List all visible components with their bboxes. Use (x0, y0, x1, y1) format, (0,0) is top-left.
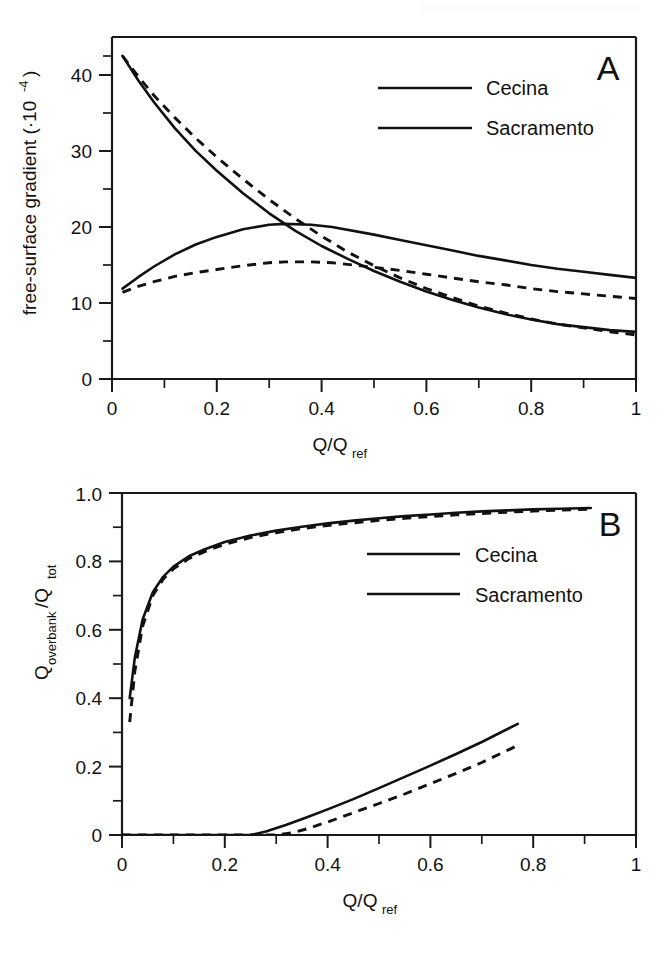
yaxis-title-b-tot: tot (44, 564, 59, 579)
xtick-label-a-06: 0.6 (413, 398, 439, 419)
panel-a-yticks-major (99, 75, 112, 379)
curve-a-sacramento-rising (123, 262, 637, 299)
yaxis-title-b: Q overbank /Q tot (31, 564, 59, 680)
xtick-label-a-04: 0.4 (308, 398, 335, 419)
xaxis-title-a-sub: ref (352, 446, 368, 461)
figure-container: 0 10 20 30 40 0 0.2 (0, 0, 671, 954)
ytick-label-b-04: 0.4 (76, 688, 103, 709)
xtick-label-b-0: 0 (117, 854, 128, 875)
panel-letter-b: B (599, 505, 622, 543)
yaxis-title-a-close: ) (19, 71, 40, 77)
xtick-label-a-1: 1 (631, 398, 642, 419)
xtick-label-a-08: 0.8 (518, 398, 544, 419)
xaxis-title-b-main: Q/Q (343, 890, 378, 911)
panel-a: 0 10 20 30 40 0 0.2 (0, 0, 671, 470)
ytick-label-a-20: 20 (71, 217, 92, 238)
legend-a-label-sacramento: Sacramento (486, 117, 594, 139)
yaxis-title-a-exponent: -4 (16, 80, 31, 92)
ytick-label-b-06: 0.6 (76, 620, 102, 641)
xaxis-title-b: Q/Q ref (343, 890, 398, 917)
panel-a-curves (123, 56, 637, 335)
xtick-label-b-02: 0.2 (212, 854, 238, 875)
panel-b-axes (122, 493, 636, 835)
yaxis-title-a: free-surface gradient (·10 -4 ) (16, 71, 40, 316)
curve-b-cecina-lower (122, 724, 518, 835)
curve-b-sacramento-lower (122, 745, 518, 835)
xaxis-title-a-main: Q/Q (313, 434, 348, 455)
panel-letter-a: A (597, 49, 620, 87)
legend-b-label-cecina: Cecina (475, 544, 538, 566)
xtick-label-a-02: 0.2 (204, 398, 230, 419)
ytick-label-a-30: 30 (71, 141, 92, 162)
panel-a-axes (112, 37, 636, 379)
panel-a-svg: 0 10 20 30 40 0 0.2 (0, 0, 671, 470)
xtick-label-b-08: 0.8 (520, 854, 546, 875)
ytick-label-b-02: 0.2 (76, 757, 102, 778)
panel-a-xticks-minor (164, 379, 583, 388)
panel-b-yticks-minor (113, 527, 122, 801)
ytick-label-a-0: 0 (81, 369, 92, 390)
ytick-label-a-40: 40 (71, 65, 92, 86)
xtick-label-b-1: 1 (631, 854, 642, 875)
legend-b: Cecina Sacramento (367, 544, 583, 606)
curve-b-sacramento-upper-main (130, 509, 591, 722)
xaxis-title-a: Q/Q ref (313, 434, 368, 461)
ytick-label-b-10: 1.0 (76, 484, 102, 505)
xtick-label-b-04: 0.4 (314, 854, 341, 875)
legend-a-label-cecina: Cecina (486, 77, 549, 99)
curve-a-cecina-declining-main (123, 56, 637, 332)
ytick-label-a-10: 10 (71, 293, 92, 314)
yaxis-title-a-main: free-surface gradient (·10 (19, 101, 40, 315)
ytick-label-b-0: 0 (91, 825, 102, 846)
panel-a-yticks-minor (103, 56, 112, 341)
panel-b-xticks-minor (173, 835, 584, 844)
xtick-label-a-0: 0 (107, 398, 118, 419)
yaxis-title-b-overbank: overbank (44, 611, 59, 665)
legend-b-label-sacramento: Sacramento (475, 584, 583, 606)
ytick-label-b-08: 0.8 (76, 551, 102, 572)
yaxis-title-b-slash: /Q (31, 588, 52, 608)
panel-b-svg: 0 0.2 0.4 0.6 0.8 1.0 (0, 470, 671, 954)
yaxis-title-b-q: Q (31, 665, 52, 680)
legend-a: Cecina Sacramento (378, 77, 594, 139)
xaxis-title-b-sub: ref (382, 902, 398, 917)
panel-b: 0 0.2 0.4 0.6 0.8 1.0 (0, 470, 671, 954)
curve-a-sacramento-declining (123, 56, 637, 335)
curve-a-cecina-rising (123, 224, 637, 289)
xtick-label-b-06: 0.6 (417, 854, 443, 875)
